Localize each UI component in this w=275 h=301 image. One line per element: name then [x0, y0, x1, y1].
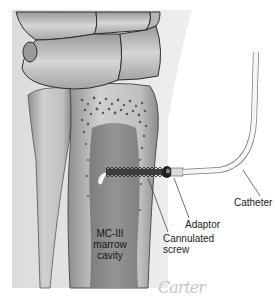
catheter-label: Catheter	[234, 197, 272, 208]
marrow-label-line-2: marrow	[82, 239, 138, 250]
marrow-cavity-label: MC-III marrow cavity	[82, 228, 138, 261]
carpal-bones	[16, 12, 161, 89]
catheter-tube	[183, 52, 256, 172]
marrow-label-line-1: MC-III	[82, 228, 138, 239]
marrow-label-line-3: cavity	[82, 250, 138, 261]
adaptor	[171, 168, 183, 176]
marrow-cavity	[89, 123, 139, 288]
screw-label-line-2: screw	[163, 244, 214, 255]
artist-signature: Carter	[158, 278, 205, 297]
cannulated-screw-label: Cannulated screw	[163, 233, 214, 255]
adaptor-label: Adaptor	[185, 219, 220, 230]
illustration: MC-III marrow cavity Catheter Adaptor Ca…	[0, 0, 275, 301]
screw-label-line-1: Cannulated	[163, 233, 214, 244]
